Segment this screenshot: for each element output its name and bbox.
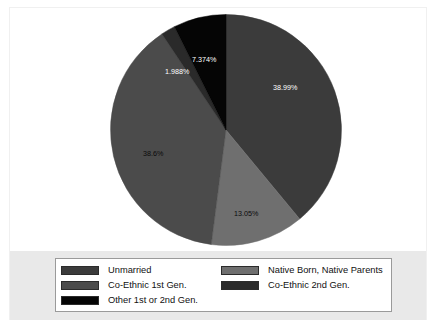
pie-slice-value-label: 38.6% bbox=[143, 149, 164, 158]
legend-entry[interactable]: Other 1st or 2nd Gen. bbox=[61, 293, 221, 308]
legend-entry-empty bbox=[221, 293, 386, 308]
legend-entry[interactable]: Unmarried bbox=[61, 263, 221, 278]
legend-label: Native Born, Native Parents bbox=[268, 265, 383, 276]
legend-color-swatch bbox=[221, 266, 259, 275]
pie-svg: 38.99%13.05%38.6%1.988%7.374% bbox=[110, 14, 342, 246]
pie-slice-value-label: 13.05% bbox=[234, 209, 259, 218]
pie-slice-value-label: 7.374% bbox=[192, 55, 217, 64]
pie-slice-value-label: 38.99% bbox=[273, 83, 298, 92]
pie-slice-value-label: 1.988% bbox=[165, 67, 190, 76]
legend-grid: UnmarriedNative Born, Native ParentsCo-E… bbox=[61, 263, 386, 308]
pie-chart-figure: 38.99%13.05%38.6%1.988%7.374% UnmarriedN… bbox=[0, 0, 436, 328]
legend-entry[interactable]: Native Born, Native Parents bbox=[221, 263, 386, 278]
legend-color-swatch bbox=[61, 266, 99, 275]
legend-color-swatch bbox=[61, 281, 99, 290]
legend-box: UnmarriedNative Born, Native ParentsCo-E… bbox=[55, 258, 392, 312]
legend-label: Other 1st or 2nd Gen. bbox=[108, 295, 198, 306]
legend-label: Unmarried bbox=[108, 265, 151, 276]
legend-entry[interactable]: Co-Ethnic 2nd Gen. bbox=[221, 278, 386, 293]
legend-band: UnmarriedNative Born, Native ParentsCo-E… bbox=[10, 251, 426, 320]
pie-slices-group bbox=[111, 15, 342, 246]
legend-color-swatch bbox=[61, 296, 99, 305]
legend-color-swatch bbox=[221, 281, 259, 290]
legend-entry[interactable]: Co-Ethnic 1st Gen. bbox=[61, 278, 221, 293]
legend-label: Co-Ethnic 1st Gen. bbox=[108, 280, 187, 291]
pie-container: 38.99%13.05%38.6%1.988%7.374% bbox=[110, 14, 342, 246]
legend-label: Co-Ethnic 2nd Gen. bbox=[268, 280, 350, 291]
plot-area: 38.99%13.05%38.6%1.988%7.374% bbox=[10, 8, 426, 251]
